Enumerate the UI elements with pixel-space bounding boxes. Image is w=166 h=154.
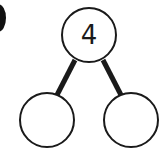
connector-left <box>57 60 75 95</box>
part-circle-right[interactable] <box>104 93 158 147</box>
connector-right <box>103 60 121 95</box>
whole-value: 4 <box>81 20 98 50</box>
part-node-left[interactable] <box>20 93 74 147</box>
part-node-right[interactable] <box>104 93 158 147</box>
part-circle-left[interactable] <box>20 93 74 147</box>
whole-node: 4 <box>62 8 116 62</box>
cropped-bullet-marker <box>0 4 6 32</box>
number-bond-diagram: 4 <box>0 0 166 154</box>
